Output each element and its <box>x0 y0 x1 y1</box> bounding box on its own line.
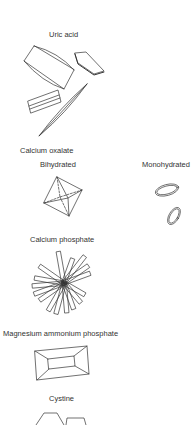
uric-acid-needle-crystal <box>39 84 87 136</box>
magnesium-ammonium-phosphate-coffin-lid <box>35 346 89 380</box>
cystine-hexagons <box>36 413 86 425</box>
crystal-illustrations <box>0 0 194 425</box>
uric-acid-hexagon-crystal <box>75 52 104 75</box>
uric-acid-rectangle-crystal <box>28 90 61 113</box>
uric-acid-barrel-crystal <box>24 46 74 89</box>
calcium-oxalate-monohydrated-ovals <box>154 182 183 227</box>
calcium-phosphate-rosette <box>32 251 91 314</box>
calcium-oxalate-bihydrated-octahedron <box>44 177 82 216</box>
